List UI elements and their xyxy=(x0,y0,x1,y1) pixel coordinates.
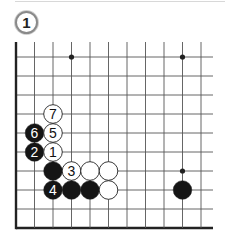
move-number: 1 xyxy=(49,144,57,160)
star-point-icon xyxy=(180,168,185,173)
black-stone xyxy=(62,181,81,200)
star-point-icon xyxy=(180,54,185,59)
move-number: 2 xyxy=(31,144,39,160)
star-point-icon xyxy=(69,54,74,59)
white-stone xyxy=(81,162,100,181)
go-board: 7652134 xyxy=(0,0,227,242)
black-stone xyxy=(173,181,192,200)
move-number: 7 xyxy=(49,106,57,122)
move-number: 5 xyxy=(49,125,57,141)
black-stone xyxy=(81,181,100,200)
white-stone xyxy=(99,162,118,181)
move-number: 4 xyxy=(49,182,57,198)
move-number: 3 xyxy=(68,163,76,179)
white-stone xyxy=(99,181,118,200)
black-stone xyxy=(44,162,63,181)
move-number: 6 xyxy=(31,125,39,141)
